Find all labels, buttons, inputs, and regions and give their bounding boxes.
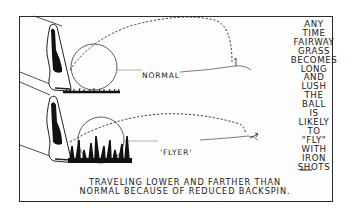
- caption: TRAVELING LOWER AND FARTHER THAN NORMAL …: [40, 178, 330, 196]
- golf-ball-icon: [71, 44, 117, 90]
- normal-label: NORMAL: [142, 71, 180, 80]
- iron-club-head-icon: [47, 96, 71, 162]
- normal-panel: [20, 16, 251, 92]
- caption-line: NORMAL BECAUSE OF REDUCED BACKSPIN.: [40, 187, 330, 196]
- tall-grass-icon: [68, 136, 132, 163]
- flyer-panel: [20, 82, 258, 163]
- flyer-label: 'FLYER': [160, 148, 192, 157]
- normal-trajectory: [70, 17, 232, 70]
- side-text-line: SHOTS: [274, 163, 354, 172]
- iron-club-head-icon: [47, 24, 71, 91]
- side-explanation-text: ANY TIME FAIRWAY GRASS BECOMES LONG AND …: [274, 20, 354, 171]
